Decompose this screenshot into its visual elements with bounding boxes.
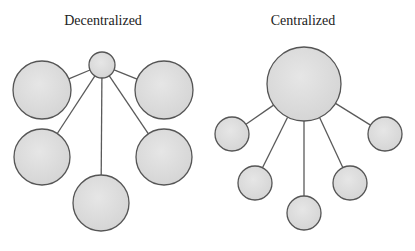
leaf-node (368, 117, 402, 151)
connection-edge (69, 70, 90, 79)
centralized-panel: Centralized (215, 13, 402, 230)
connection-edge (336, 103, 371, 125)
leaf-node (215, 117, 249, 151)
network-topology-diagram: Decentralized Centralized (0, 0, 415, 251)
leaf-node (238, 166, 272, 200)
centralized-title: Centralized (271, 13, 336, 28)
leaf-node (73, 175, 129, 231)
connection-edge (320, 118, 343, 168)
leaf-node (135, 61, 193, 119)
connection-edge (101, 78, 102, 175)
leaf-node (14, 129, 70, 185)
leaf-node (287, 196, 321, 230)
hub-node (267, 47, 341, 121)
leaf-node (13, 61, 71, 119)
hub-node (89, 52, 115, 78)
decentralized-panel: Decentralized (13, 13, 193, 231)
leaf-node (333, 166, 367, 200)
decentralized-nodes (13, 52, 193, 231)
decentralized-title: Decentralized (64, 13, 142, 28)
connection-edge (263, 117, 288, 168)
leaf-node (136, 129, 192, 185)
connection-edge (114, 70, 137, 79)
centralized-nodes (215, 47, 402, 230)
connection-edge (246, 105, 274, 124)
